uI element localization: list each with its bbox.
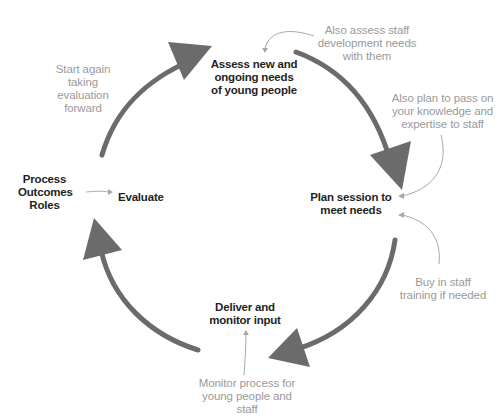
cycle-arrow-plan-to-deliver (268, 240, 395, 367)
note-arrow-assess-staff (262, 32, 314, 53)
stage-evaluate: Evaluate (118, 191, 162, 204)
note-start-again: Start again taking evaluation forward (43, 63, 123, 115)
cycle-arrow-deliver-to-evaluate (83, 218, 198, 350)
note-arrow-evaluation-criteria (86, 189, 113, 195)
stage-deliver: Deliver and monitor input (205, 301, 285, 327)
stage-plan: Plan session to meet needs (308, 191, 394, 217)
note-assess-staff: Also assess staff development needs with… (317, 24, 417, 63)
note-arrow-buy-training (398, 212, 439, 264)
note-arrow-monitor-process (243, 330, 249, 375)
note-buy-training: Buy in staff training if needed (398, 276, 488, 302)
stage-assess: Assess new and ongoing needs of young pe… (206, 58, 302, 97)
note-monitor-process: Monitor process for young people and sta… (193, 377, 301, 416)
note-evaluation-criteria: Process Outcomes Roles (18, 173, 71, 212)
note-pass-knowledge: Also plan to pass on your knowledge and … (386, 92, 499, 131)
